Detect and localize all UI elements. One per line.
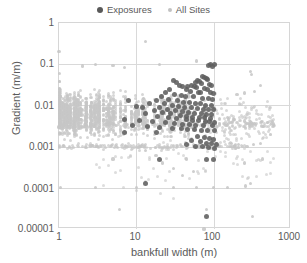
data-point-all-sites (147, 178, 150, 181)
data-point-all-sites (58, 80, 61, 83)
data-point-all-sites (162, 141, 165, 144)
data-point-exposure (187, 100, 192, 105)
data-point-all-sites (159, 192, 162, 195)
legend-entry-all-sites: All Sites (168, 5, 210, 15)
data-point-exposure (210, 97, 215, 102)
data-point-all-sites (73, 97, 76, 100)
data-point-all-sites (129, 155, 132, 158)
data-point-all-sites (58, 112, 61, 115)
data-point-exposure (134, 104, 139, 109)
data-point-all-sites (119, 125, 122, 128)
data-point-all-sites (253, 105, 256, 108)
data-point-all-sites (107, 164, 110, 167)
data-point-exposure (143, 181, 148, 186)
data-point-exposure (157, 157, 162, 162)
y-tick-label-1: 1 (0, 18, 54, 28)
data-point-exposure (212, 146, 217, 151)
data-point-exposure (211, 91, 216, 96)
data-point-all-sites (227, 138, 230, 141)
data-point-all-sites (63, 123, 66, 126)
data-point-all-sites (257, 113, 260, 116)
data-point-all-sites (144, 100, 147, 103)
data-point-all-sites (102, 114, 105, 117)
data-point-exposure (167, 87, 172, 92)
legend-marker-all-sites-icon (168, 8, 172, 12)
data-point-all-sites (57, 50, 60, 53)
chart-legend: Exposures All Sites (0, 2, 307, 18)
data-point-all-sites (115, 124, 118, 127)
data-point-all-sites (223, 134, 226, 137)
data-point-exposure (209, 83, 214, 88)
data-point-all-sites (69, 139, 72, 142)
data-point-exposure (122, 130, 127, 135)
data-point-exposure (198, 90, 203, 95)
data-point-exposure (154, 130, 159, 135)
data-point-all-sites (119, 103, 122, 106)
scatter-chart: Exposures All Sites Gradient (m/m) 1 0.1… (0, 0, 307, 263)
data-point-all-sites (166, 128, 169, 131)
data-point-all-sites (269, 172, 272, 175)
data-point-all-sites (166, 135, 169, 138)
data-point-exposure (211, 157, 216, 162)
data-point-all-sites (58, 72, 61, 75)
data-point-all-sites (230, 142, 233, 145)
data-point-all-sites (206, 150, 209, 153)
data-point-all-sites (255, 118, 258, 121)
data-point-all-sites (192, 170, 195, 173)
data-point-all-sites (86, 136, 89, 139)
data-point-exposure (191, 94, 196, 99)
data-point-all-sites (231, 125, 234, 128)
data-point-all-sites (124, 90, 127, 93)
data-point-all-sites (268, 128, 271, 131)
legend-entry-exposures: Exposures (97, 5, 152, 15)
data-point-all-sites (238, 119, 241, 122)
data-point-all-sites (102, 128, 105, 131)
data-point-all-sites (111, 64, 114, 67)
data-point-all-sites (265, 173, 268, 176)
data-point-all-sites (237, 146, 240, 149)
data-point-all-sites (117, 135, 120, 138)
x-axis-label: bankfull width (m) (58, 246, 290, 258)
data-point-all-sites (196, 170, 199, 173)
data-point-all-sites (118, 208, 121, 211)
x-tick-label-1: 1 (39, 232, 79, 242)
data-point-all-sites (219, 150, 222, 153)
data-point-all-sites (66, 147, 69, 150)
data-point-all-sites (252, 143, 255, 146)
data-point-exposure (195, 106, 200, 111)
data-point-all-sites (90, 113, 93, 116)
data-point-exposure (166, 97, 171, 102)
data-point-all-sites (154, 146, 157, 149)
data-point-all-sites (107, 133, 110, 136)
data-point-all-sites (266, 100, 269, 103)
data-point-all-sites (168, 170, 171, 173)
data-point-all-sites (235, 93, 238, 96)
data-point-all-sites (179, 131, 182, 134)
data-point-exposure (126, 98, 131, 103)
y-tick-label-0.0001: 0.0001 (0, 184, 54, 194)
data-point-all-sites (102, 118, 105, 121)
data-point-all-sites (61, 120, 64, 123)
data-point-all-sites (120, 156, 123, 159)
data-point-all-sites (160, 149, 163, 152)
y-tick-label-0.01: 0.01 (0, 101, 54, 111)
data-point-all-sites (85, 146, 88, 149)
data-point-all-sites (130, 113, 133, 116)
data-point-all-sites (97, 146, 100, 149)
data-point-all-sites (98, 134, 101, 137)
data-point-all-sites (272, 157, 275, 160)
data-point-all-sites (58, 96, 61, 99)
data-point-all-sites (245, 145, 248, 148)
data-point-all-sites (124, 144, 127, 147)
data-point-all-sites (242, 101, 245, 104)
data-point-all-sites (124, 108, 127, 111)
data-point-all-sites (247, 133, 250, 136)
data-point-all-sites (108, 107, 111, 110)
data-point-all-sites (265, 136, 268, 139)
data-point-all-sites (141, 93, 144, 96)
data-point-all-sites (114, 155, 117, 158)
data-point-all-sites (63, 138, 66, 141)
data-point-all-sites (57, 125, 60, 128)
data-point-exposure (181, 100, 186, 105)
data-point-all-sites (97, 107, 100, 110)
